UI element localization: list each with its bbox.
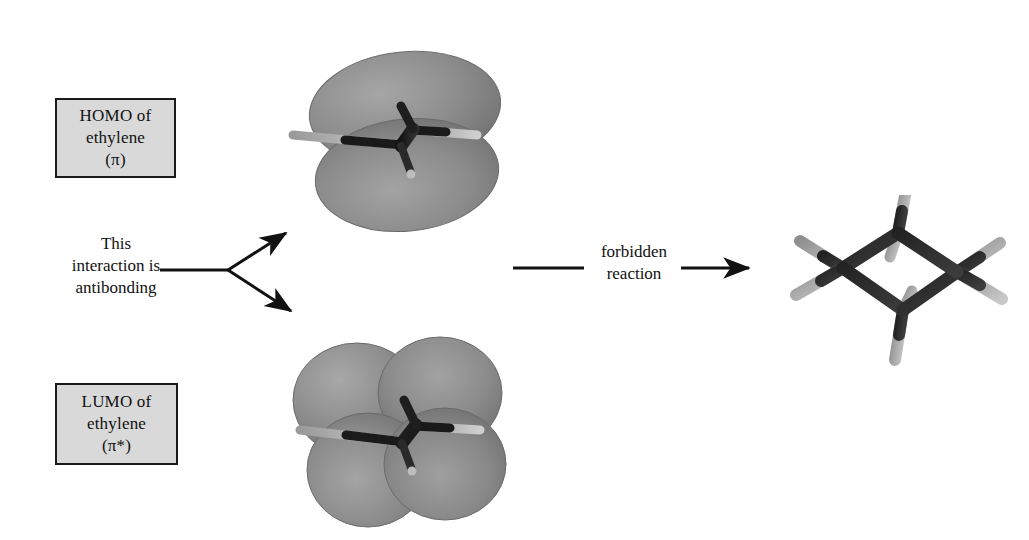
antibonding-line2: interaction is — [42, 255, 190, 277]
lumo-label-box: LUMO of ethylene (π*) — [55, 383, 178, 465]
reaction-line2: reaction — [585, 263, 683, 285]
antibonding-caption: This interaction is antibonding — [42, 233, 190, 299]
homo-orbital-graphic — [283, 42, 533, 242]
fork-lower-arrow — [228, 270, 291, 311]
cyclobutane-ring — [843, 233, 957, 310]
lumo-orbital-graphic — [282, 330, 534, 534]
cyclobutane-hydrogens — [796, 195, 1002, 360]
lumo-label-line1: LUMO of — [82, 391, 152, 413]
antibonding-line3: antibonding — [42, 277, 190, 299]
antibonding-line1: This — [42, 233, 190, 255]
homo-label-line1: HOMO of — [80, 105, 152, 127]
cyclobutane-product-graphic — [790, 195, 1010, 375]
homo-label-box: HOMO of ethylene (π) — [55, 98, 176, 178]
homo-label-line2: ethylene — [86, 127, 145, 149]
diagram-canvas: HOMO of ethylene (π) LUMO of ethylene (π… — [0, 0, 1029, 540]
reaction-caption: forbidden reaction — [585, 241, 683, 285]
homo-label-line3: (π) — [105, 149, 126, 171]
reaction-line1: forbidden — [585, 241, 683, 263]
lumo-label-line2: ethylene — [87, 413, 146, 435]
fork-upper-arrow — [228, 233, 286, 270]
lumo-label-line3: (π*) — [102, 435, 131, 457]
